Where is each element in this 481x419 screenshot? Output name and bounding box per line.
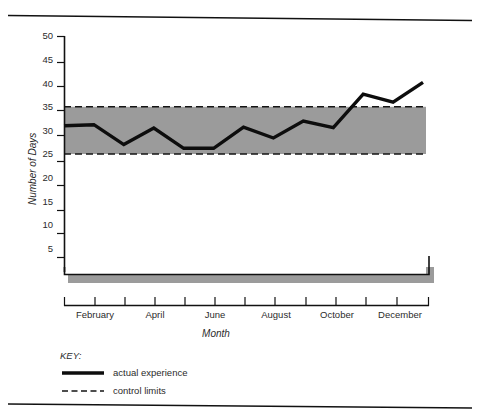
legend-title: KEY: [60,350,82,361]
top-rule [8,16,472,21]
y-tick-label-50: 50 [42,30,53,41]
y-tick-label-20: 20 [42,172,53,183]
x-tick-label-october: October [320,309,354,320]
bottom-rule [8,404,472,408]
y-tick-label-25: 25 [42,148,53,159]
y-axis-title: Number of Days [27,133,38,205]
x-tick-label-february: February [76,309,114,320]
y-tick-label-45: 45 [42,54,53,65]
control-chart: 50 45 40 35 30 25 20 15 10 5 Number of D… [0,0,481,419]
y-tick-marks [57,37,65,258]
x-baseline [65,256,430,275]
y-tick-label-40: 40 [42,78,53,89]
legend-label-control-limits: control limits [113,385,166,396]
x-tick-label-december: December [378,309,422,320]
y-tick-labels: 50 45 40 35 30 25 20 15 10 5 [42,30,53,253]
chart-figure: 50 45 40 35 30 25 20 15 10 5 Number of D… [0,0,481,419]
y-tick-label-15: 15 [42,196,53,207]
y-tick-label-5: 5 [48,243,53,254]
x-tick-label-august: August [261,309,291,320]
x-axis-title: Month [202,328,230,339]
x-tick-label-june: June [205,309,226,320]
x-tick-labels: February April June August October Decem… [76,309,422,320]
x-tick-marks [65,297,429,306]
axis-shadow [68,275,434,283]
legend-label-actual-experience: actual experience [113,367,187,378]
control-band [64,107,426,154]
y-tick-label-35: 35 [42,101,53,112]
y-tick-label-30: 30 [42,125,53,136]
y-tick-label-10: 10 [42,219,53,230]
x-tick-label-april: April [145,309,164,320]
